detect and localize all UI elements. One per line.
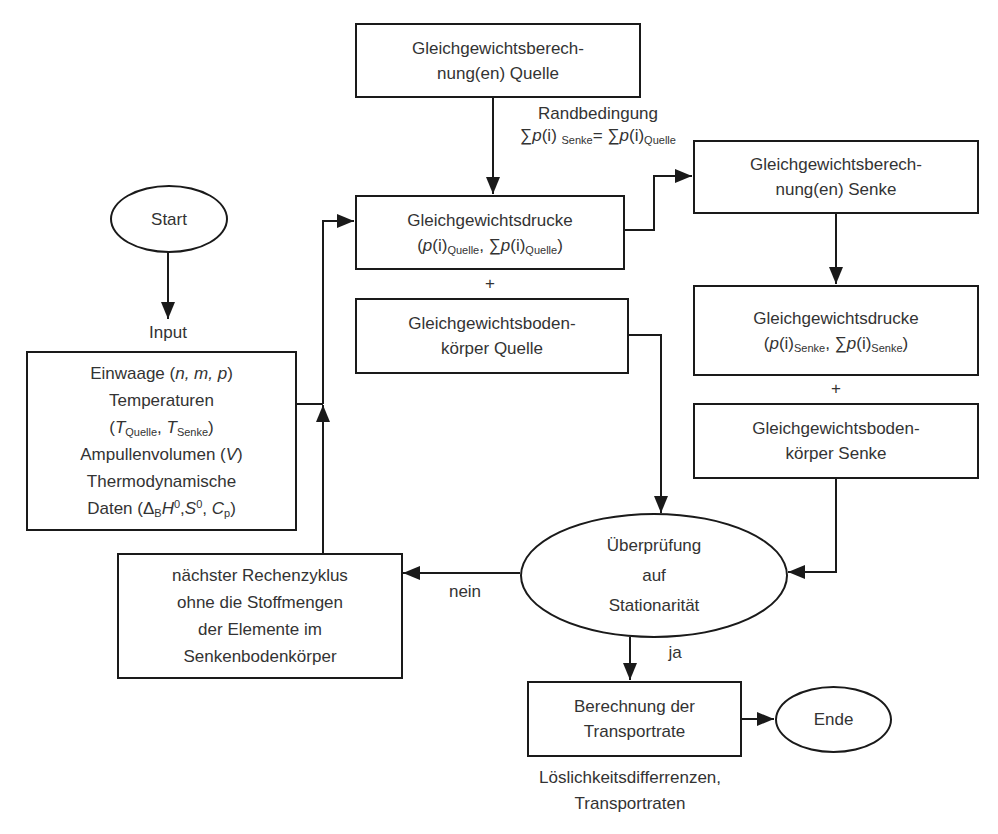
input-line-thermo: Thermodynamische (87, 468, 236, 495)
eq-calc-sink-line1: Gleichgewichtsberech- (750, 152, 922, 177)
edge-label-yes: ja (660, 641, 690, 665)
calc-rate-line2: Transportrate (584, 719, 685, 744)
eq-calc-sink-node: Gleichgewichtsberech- nung(en) Senke (693, 140, 979, 214)
eq-calc-source-node: Gleichgewichtsberech- nung(en) Quelle (355, 23, 641, 98)
check-line1: Überprüfung (607, 531, 702, 561)
next-cycle-line1: nächster Rechenzyklus (172, 562, 348, 589)
next-cycle-line4: Senkenbodenkörper (183, 643, 336, 670)
eq-solid-sink-line1: Gleichgewichtsboden- (752, 416, 919, 441)
end-label: Ende (814, 707, 854, 732)
next-cycle-node: nächster Rechenzyklus ohne die Stoffmeng… (117, 553, 403, 679)
eq-pressure-source-formula: (p(i)Quelle, ∑p(i)Quelle) (417, 233, 563, 258)
output-label-line2: Transportraten (510, 791, 750, 817)
edge-label-no: nein (440, 580, 490, 604)
input-node: Einwaage (n, m, p) Temperaturen (TQuelle… (26, 351, 297, 531)
calc-transport-rate-node: Berechnung der Transportrate (527, 681, 742, 757)
output-label-line1: Löslichkeitsdifferrenzen, (510, 765, 750, 791)
input-line-thermo-data: Daten (ΔBH0,S0, Cp) (87, 495, 236, 522)
boundary-condition-label: Randbedingung ∑p(i) Senke= ∑p(i)Quelle (498, 103, 698, 147)
edge-junction-pressure-source (323, 221, 354, 404)
plus-sink-label: + (826, 377, 846, 401)
plus-source-label: + (480, 272, 500, 296)
eq-solid-source-line1: Gleichgewichtsboden- (408, 311, 575, 336)
eq-pressure-sink-line1: Gleichgewichtsdrucke (753, 306, 918, 331)
edge-pressure-source-calc-sink (624, 176, 692, 230)
eq-solid-sink-line2: körper Senke (785, 441, 886, 466)
next-cycle-line3: der Elemente im (198, 616, 322, 643)
eq-pressure-sink-node: Gleichgewichtsdrucke (p(i)Senke, ∑p(i)Se… (693, 285, 979, 376)
edge-solid-sink-check (788, 478, 836, 572)
boundary-condition-formula: ∑p(i) Senke= ∑p(i)Quelle (498, 125, 698, 147)
output-label: Löslichkeitsdifferrenzen, Transportraten (510, 765, 750, 817)
input-line-temperature-values: (TQuelle, TSenke) (109, 414, 214, 441)
calc-rate-line1: Berechnung der (574, 694, 695, 719)
eq-calc-sink-line2: nung(en) Senke (776, 177, 897, 202)
eq-calc-source-line1: Gleichgewichtsberech- (412, 36, 584, 61)
eq-solid-source-line2: körper Quelle (441, 336, 543, 361)
eq-solid-sink-node: Gleichgewichtsboden- körper Senke (693, 403, 979, 479)
start-node: Start (110, 185, 228, 253)
start-label: Start (151, 207, 187, 232)
end-node: Ende (775, 686, 892, 753)
input-label: Input (128, 321, 208, 345)
eq-calc-source-line2: nung(en) Quelle (437, 61, 559, 86)
eq-pressure-source-line1: Gleichgewichtsdrucke (407, 208, 572, 233)
boundary-condition-title: Randbedingung (498, 103, 698, 125)
eq-solid-source-node: Gleichgewichtsboden- körper Quelle (355, 298, 629, 374)
eq-pressure-sink-formula: (p(i)Senke, ∑p(i)Senke) (764, 331, 908, 356)
input-line-weighing: Einwaage (n, m, p) (90, 360, 233, 387)
check-line2: auf (642, 561, 666, 591)
input-line-temperatures: Temperaturen (109, 387, 214, 414)
check-line3: Stationarität (609, 591, 700, 621)
flowchart-canvas: Start Input Einwaage (n, m, p) Temperatu… (0, 0, 998, 834)
input-line-volume: Ampullenvolumen (V) (80, 441, 243, 468)
edge-solid-source-check (628, 335, 661, 513)
next-cycle-line2: ohne die Stoffmengen (177, 589, 343, 616)
eq-pressure-source-node: Gleichgewichtsdrucke (p(i)Quelle, ∑p(i)Q… (355, 195, 625, 270)
stationarity-check-node: Überprüfung auf Stationarität (520, 513, 788, 638)
